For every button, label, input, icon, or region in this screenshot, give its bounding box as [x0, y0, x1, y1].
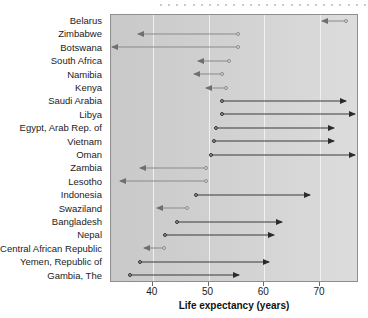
arrow-head [328, 125, 335, 131]
start-marker [204, 166, 208, 170]
arrow-head [197, 58, 204, 64]
start-marker [212, 139, 216, 143]
arrow-head [205, 85, 212, 91]
decor-dot [339, 4, 341, 6]
decor-dot [193, 4, 195, 6]
arrow-row [110, 255, 358, 268]
country-label: Namibia [0, 68, 102, 81]
start-marker [236, 32, 240, 36]
life-expectancy-arrow-chart: BelarusZimbabweBotswanaSouth AfricaNamib… [0, 0, 368, 318]
arrow-line [120, 181, 206, 182]
country-label: Gambia, The [0, 269, 102, 282]
decor-dot [250, 4, 252, 6]
decor-dot [274, 4, 276, 6]
country-label: Bangladesh [0, 215, 102, 228]
start-marker [220, 99, 224, 103]
arrow-row [110, 14, 358, 27]
start-marker [236, 45, 240, 49]
arrow-row [110, 175, 358, 188]
arrow-row [110, 27, 358, 40]
arrow-line [138, 34, 238, 35]
arrow-line [214, 141, 334, 142]
arrow-head [349, 152, 356, 158]
country-label: Egypt, Arab Rep. of [0, 121, 102, 134]
arrow-row [110, 108, 358, 121]
arrow-line [130, 275, 239, 276]
decor-dot [233, 4, 235, 6]
arrow-head [340, 98, 347, 104]
y-axis-labels: BelarusZimbabweBotswanaSouth AfricaNamib… [0, 14, 106, 282]
arrow-row [110, 202, 358, 215]
start-marker [185, 206, 189, 210]
decor-dot [242, 4, 244, 6]
country-label: Central African Republic [0, 242, 102, 255]
country-label: South Africa [0, 54, 102, 67]
start-marker [175, 220, 179, 224]
x-tick-label: 50 [202, 286, 213, 297]
arrow-row [110, 188, 358, 201]
decor-dot [299, 4, 301, 6]
arrow-line [112, 47, 239, 48]
start-marker [224, 86, 228, 90]
arrow-line [165, 235, 274, 236]
start-marker [162, 246, 166, 250]
x-tick-label: 60 [258, 286, 269, 297]
decor-dot [168, 4, 170, 6]
arrow-head [143, 245, 150, 251]
start-marker [214, 126, 218, 130]
arrow-head [111, 44, 118, 50]
decor-dot [258, 4, 260, 6]
decor-dot [331, 4, 333, 6]
x-tick-label: 40 [146, 286, 157, 297]
country-label: Indonesia [0, 188, 102, 201]
country-label: Belarus [0, 14, 102, 27]
arrow-row [110, 242, 358, 255]
decor-dot [315, 4, 317, 6]
arrow-row [110, 161, 358, 174]
decor-dot [323, 4, 325, 6]
arrow-line [211, 154, 355, 155]
arrow-row [110, 94, 358, 107]
arrow-row [110, 215, 358, 228]
arrow-line [140, 168, 206, 169]
arrow-head [276, 219, 283, 225]
decor-dot [356, 4, 358, 6]
start-marker [128, 273, 132, 277]
arrow-head [349, 111, 356, 117]
decor-dot [307, 4, 309, 6]
decor-dot [184, 4, 186, 6]
arrow-row [110, 228, 358, 241]
arrow-row [110, 135, 358, 148]
arrow-head [304, 192, 311, 198]
country-label: Vietnam [0, 135, 102, 148]
country-label: Zimbabwe [0, 27, 102, 40]
decor-dot [348, 4, 350, 6]
country-label: Lesotho [0, 175, 102, 188]
arrow-head [139, 165, 146, 171]
decor-dot [201, 4, 203, 6]
decor-dot [160, 4, 162, 6]
start-marker [138, 260, 142, 264]
arrow-row [110, 54, 358, 67]
start-marker [220, 72, 224, 76]
arrow-head [193, 71, 200, 77]
arrow-line [140, 261, 269, 262]
arrow-line [222, 101, 346, 102]
arrow-head [321, 18, 328, 24]
arrow-row [110, 148, 358, 161]
start-marker [204, 179, 208, 183]
series-layer [110, 14, 358, 282]
x-axis: 40506070 [110, 282, 358, 302]
arrow-head [137, 31, 144, 37]
start-marker [194, 193, 198, 197]
decor-dot [266, 4, 268, 6]
arrow-line [177, 221, 282, 222]
decorative-dot-band [160, 2, 366, 8]
decor-dot [364, 4, 366, 6]
arrow-head [268, 232, 275, 238]
arrow-head [156, 205, 163, 211]
start-marker [209, 153, 213, 157]
decor-dot [291, 4, 293, 6]
decor-dot [176, 4, 178, 6]
x-axis-title: Life expectancy (years) [110, 300, 358, 311]
